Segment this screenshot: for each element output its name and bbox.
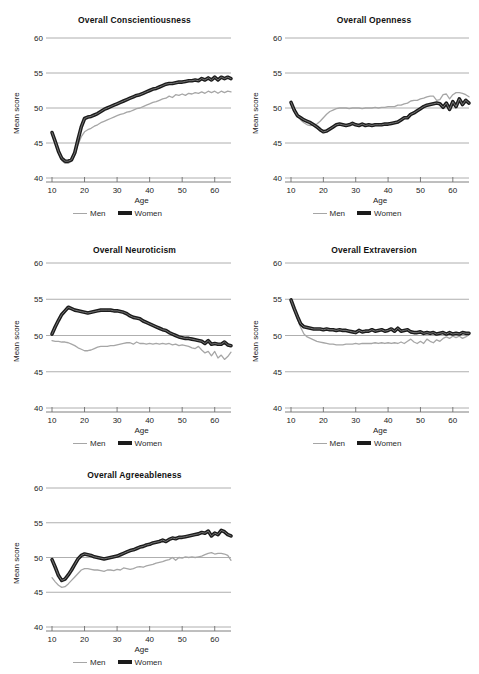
x-tick-label: 20 <box>319 416 328 425</box>
x-tick-label: 50 <box>178 416 187 425</box>
y-tick-label: 55 <box>34 69 43 78</box>
y-tick-label: 60 <box>34 484 43 493</box>
legend-label-men: Men <box>90 439 106 448</box>
x-tick-label: 40 <box>145 416 154 425</box>
series-line-women <box>52 77 231 161</box>
legend-label-women: Women <box>135 209 162 218</box>
series-line-men <box>52 91 231 163</box>
y-tick-label: 60 <box>34 34 43 43</box>
x-tick-label: 10 <box>48 635 57 644</box>
plot-area: 4045505560102030405060 <box>239 230 479 455</box>
series-line-women <box>52 307 231 345</box>
line-swatch-women-icon <box>118 211 132 215</box>
y-tick-label: 45 <box>34 588 43 597</box>
line-swatch-men-icon <box>73 662 87 663</box>
legend-item-men: Men <box>313 439 346 448</box>
panel-conscientiousness: Overall Conscientiousness 40455055601020… <box>0 0 239 230</box>
x-tick-label: 30 <box>351 186 360 195</box>
legend: MenWomen <box>239 439 475 448</box>
figure-grid: Overall Conscientiousness 40455055601020… <box>0 0 479 674</box>
plot-svg: 4045505560102030405060 <box>0 230 239 455</box>
legend-item-women: Women <box>118 658 162 667</box>
y-tick-label: 60 <box>34 259 43 268</box>
x-tick-label: 40 <box>145 186 154 195</box>
y-tick-label: 45 <box>273 139 282 148</box>
legend-item-women: Women <box>118 439 162 448</box>
y-tick-label: 40 <box>273 174 282 183</box>
series-line-women-core <box>52 77 231 161</box>
x-tick-label: 50 <box>416 416 425 425</box>
x-tick-label: 50 <box>416 186 425 195</box>
y-tick-label: 50 <box>34 554 43 563</box>
legend: MenWomen <box>0 439 235 448</box>
x-tick-label: 30 <box>113 186 122 195</box>
x-axis-label: Age <box>52 645 231 654</box>
x-tick-label: 40 <box>384 416 393 425</box>
y-axis-label: Mean score <box>251 320 260 362</box>
y-tick-label: 50 <box>34 332 43 341</box>
x-tick-label: 60 <box>210 186 219 195</box>
x-tick-label: 20 <box>80 186 89 195</box>
x-tick-label: 20 <box>80 416 89 425</box>
panel-openness: Overall Openness 4045505560102030405060 … <box>239 0 479 230</box>
y-tick-label: 45 <box>34 368 43 377</box>
series-line-women-core <box>52 307 231 345</box>
legend-label-women: Women <box>135 439 162 448</box>
panel-neuroticism: Overall Neuroticism 40455055601020304050… <box>0 230 239 455</box>
y-tick-label: 40 <box>34 404 43 413</box>
y-tick-label: 55 <box>34 295 43 304</box>
line-swatch-women-icon <box>118 660 132 664</box>
line-swatch-men-icon <box>73 443 87 444</box>
legend-label-women: Women <box>135 658 162 667</box>
line-swatch-women-icon <box>118 441 132 445</box>
x-tick-label: 30 <box>351 416 360 425</box>
x-tick-label: 50 <box>178 186 187 195</box>
y-tick-label: 40 <box>34 174 43 183</box>
line-swatch-men-icon <box>313 443 327 444</box>
plot-area: 4045505560102030405060 <box>0 455 239 674</box>
y-tick-label: 50 <box>273 104 282 113</box>
legend-item-men: Men <box>313 209 346 218</box>
legend-label-men: Men <box>330 209 346 218</box>
legend: MenWomen <box>0 658 235 667</box>
legend-item-men: Men <box>73 209 106 218</box>
legend-item-women: Women <box>357 209 401 218</box>
y-tick-label: 50 <box>34 104 43 113</box>
x-tick-label: 30 <box>113 416 122 425</box>
y-tick-label: 60 <box>273 34 282 43</box>
x-tick-label: 20 <box>319 186 328 195</box>
y-tick-label: 45 <box>273 368 282 377</box>
y-axis-label: Mean score <box>251 92 260 134</box>
legend-label-women: Women <box>374 439 401 448</box>
legend-item-women: Women <box>357 439 401 448</box>
legend-label-men: Men <box>330 439 346 448</box>
y-tick-label: 50 <box>273 332 282 341</box>
legend-label-women: Women <box>374 209 401 218</box>
y-tick-label: 40 <box>273 404 282 413</box>
series-line-women <box>291 99 469 132</box>
y-tick-label: 45 <box>34 139 43 148</box>
panel-extraversion: Overall Extraversion 4045505560102030405… <box>239 230 479 455</box>
legend-item-men: Men <box>73 658 106 667</box>
empty-cell <box>239 455 479 674</box>
line-swatch-men-icon <box>313 213 327 214</box>
x-tick-label: 40 <box>145 635 154 644</box>
x-tick-label: 10 <box>287 186 296 195</box>
y-tick-label: 40 <box>34 623 43 632</box>
y-tick-label: 55 <box>273 295 282 304</box>
x-axis-label: Age <box>52 426 231 435</box>
x-tick-label: 10 <box>287 416 296 425</box>
legend: MenWomen <box>239 209 475 218</box>
x-tick-label: 30 <box>113 635 122 644</box>
x-tick-label: 10 <box>48 186 57 195</box>
y-tick-label: 60 <box>273 259 282 268</box>
line-swatch-men-icon <box>73 213 87 214</box>
x-tick-label: 60 <box>448 186 457 195</box>
y-tick-label: 55 <box>34 519 43 528</box>
legend-item-women: Women <box>118 209 162 218</box>
x-tick-label: 10 <box>48 416 57 425</box>
x-tick-label: 60 <box>210 635 219 644</box>
panel-agreeableness: Overall Agreeableness 404550556010203040… <box>0 455 239 674</box>
line-swatch-women-icon <box>357 211 371 215</box>
y-tick-label: 55 <box>273 69 282 78</box>
